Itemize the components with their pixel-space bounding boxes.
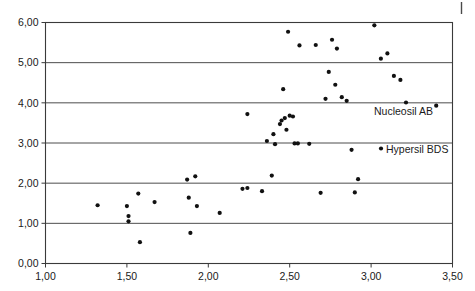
data-point-0-6 bbox=[152, 200, 156, 204]
data-point-0-11 bbox=[195, 204, 199, 208]
data-point-0-41 bbox=[345, 99, 349, 103]
data-point-0-16 bbox=[260, 189, 264, 193]
data-point-0-25 bbox=[284, 128, 288, 132]
data-point-0-0 bbox=[95, 203, 99, 207]
data-point-0-45 bbox=[372, 23, 376, 27]
x-tick-label-3: 2,50 bbox=[279, 270, 300, 282]
data-point-0-38 bbox=[333, 83, 337, 87]
scatter-chart: 0,001,002,003,004,005,006,001,001,502,00… bbox=[0, 0, 475, 291]
y-tick-label-0: 0,00 bbox=[18, 257, 39, 269]
chart-canvas: 0,001,002,003,004,005,006,001,001,502,00… bbox=[0, 0, 475, 291]
data-point-0-43 bbox=[353, 190, 357, 194]
legend-label-0: Nucleosil AB bbox=[374, 105, 433, 117]
x-tick-label-1: 1,50 bbox=[117, 270, 138, 282]
y-tick-label-2: 2,00 bbox=[18, 177, 39, 189]
data-point-0-8 bbox=[187, 196, 191, 200]
data-point-0-20 bbox=[273, 142, 277, 146]
data-point-0-34 bbox=[319, 191, 323, 195]
data-point-0-5 bbox=[138, 240, 142, 244]
data-point-0-48 bbox=[392, 74, 396, 78]
data-point-0-50 bbox=[434, 104, 438, 108]
data-point-0-24 bbox=[283, 116, 287, 120]
legend-marker-1 bbox=[379, 146, 383, 150]
data-point-0-12 bbox=[218, 211, 222, 215]
legend-marker-0 bbox=[404, 100, 408, 104]
data-point-0-2 bbox=[126, 214, 130, 218]
data-point-0-49 bbox=[398, 78, 402, 82]
data-point-0-18 bbox=[270, 173, 274, 177]
data-point-0-4 bbox=[136, 192, 140, 196]
data-point-0-23 bbox=[281, 87, 285, 91]
data-point-0-21 bbox=[278, 122, 282, 126]
data-point-0-37 bbox=[330, 38, 334, 42]
y-tick-label-4: 4,00 bbox=[18, 97, 39, 109]
y-tick-label-1: 1,00 bbox=[18, 217, 39, 229]
data-point-0-9 bbox=[188, 231, 192, 235]
data-point-0-46 bbox=[379, 57, 383, 61]
x-tick-label-4: 3,00 bbox=[361, 270, 382, 282]
data-point-0-30 bbox=[296, 141, 300, 145]
data-point-0-1 bbox=[125, 204, 129, 208]
data-point-0-7 bbox=[185, 177, 189, 181]
data-point-0-42 bbox=[349, 148, 353, 152]
data-point-0-28 bbox=[291, 114, 295, 118]
data-point-0-10 bbox=[193, 174, 197, 178]
x-tick-label-5: 3,50 bbox=[442, 270, 463, 282]
data-point-0-32 bbox=[307, 142, 311, 146]
data-point-0-47 bbox=[385, 51, 389, 55]
data-point-0-3 bbox=[126, 219, 130, 223]
data-point-0-40 bbox=[340, 95, 344, 99]
x-tick-label-0: 1,00 bbox=[35, 270, 56, 282]
data-point-0-36 bbox=[327, 70, 331, 74]
data-point-0-33 bbox=[314, 43, 318, 47]
y-tick-label-3: 3,00 bbox=[18, 137, 39, 149]
data-point-0-35 bbox=[323, 97, 327, 101]
x-tick-label-2: 2,00 bbox=[198, 270, 219, 282]
data-point-0-14 bbox=[245, 186, 249, 190]
legend-label-1: Hypersil BDS bbox=[386, 143, 448, 155]
data-point-0-44 bbox=[356, 177, 360, 181]
data-point-0-31 bbox=[297, 43, 301, 47]
data-point-0-17 bbox=[265, 139, 269, 143]
data-point-0-15 bbox=[245, 112, 249, 116]
data-point-0-13 bbox=[240, 187, 244, 191]
y-tick-label-5: 5,00 bbox=[18, 56, 39, 68]
data-point-0-39 bbox=[335, 47, 339, 51]
data-point-0-26 bbox=[286, 30, 290, 34]
y-tick-label-6: 6,00 bbox=[18, 16, 39, 28]
data-point-0-19 bbox=[271, 132, 275, 136]
